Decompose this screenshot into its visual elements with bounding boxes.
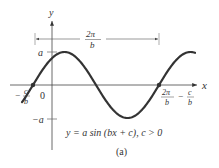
right-intercept-num1: 2π [162, 88, 171, 97]
left-intercept-num: c [24, 87, 28, 96]
tick-label-neg-a: −a [32, 114, 44, 125]
origin-label: 0 [40, 90, 45, 101]
tick-label-a: a [38, 47, 43, 58]
caption: (a) [116, 146, 127, 158]
period-label-num: 2π [86, 29, 96, 39]
left-intercept-minus: − [15, 90, 20, 100]
sine-diagram: y x 0 a −a 2π b − c b 2π b − c b y = a s… [0, 0, 219, 168]
period-label-den: b [90, 40, 95, 50]
right-intercept-point [157, 83, 161, 87]
right-intercept-num2: c [188, 88, 192, 97]
left-intercept-point [31, 83, 35, 87]
right-intercept-minus: − [178, 91, 183, 101]
y-axis-label: y [48, 7, 54, 18]
x-axis-label: x [201, 79, 207, 91]
right-intercept-den1: b [165, 98, 169, 107]
equation: y = a sin (bx + c), c > 0 [65, 127, 162, 139]
left-intercept-den: b [24, 97, 28, 106]
right-intercept-den2: b [188, 98, 192, 107]
